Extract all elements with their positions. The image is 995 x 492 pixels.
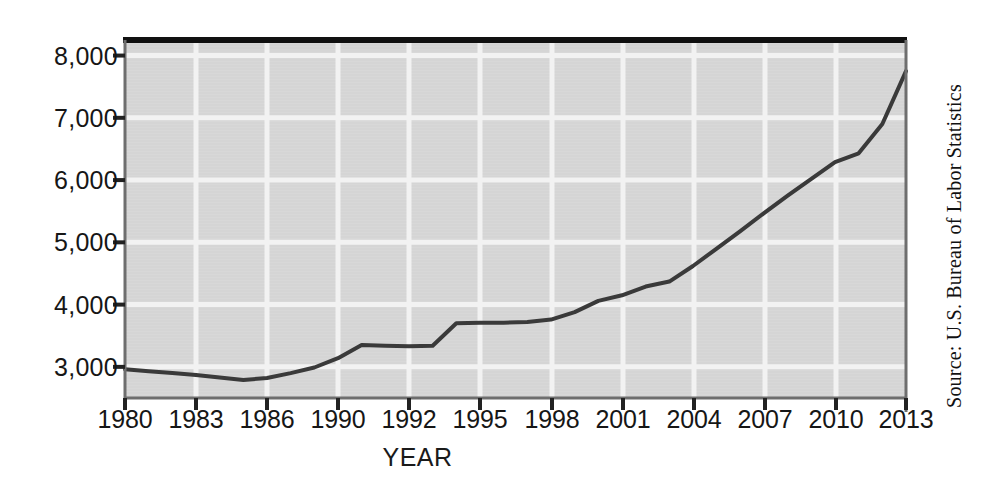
x-axis-tick-label: 2004 bbox=[667, 405, 722, 434]
x-axis-tick-label: 2013 bbox=[879, 405, 934, 434]
x-axis-tick-label: 2010 bbox=[809, 405, 864, 434]
y-axis-tick-label: 4,000 bbox=[18, 290, 118, 319]
x-axis-tick-label: 1990 bbox=[311, 405, 366, 434]
y-axis-tick-label: 8,000 bbox=[18, 41, 118, 70]
x-axis-title: YEAR bbox=[0, 443, 995, 472]
chart-figure: 3,0004,0005,0006,0007,0008,000 198019831… bbox=[0, 0, 995, 492]
source-note-text: Source: U.S. Bureau of Labor Statistics bbox=[943, 84, 966, 408]
x-axis-tick-label: 1998 bbox=[525, 405, 580, 434]
x-axis-tick-label: 2007 bbox=[738, 405, 793, 434]
y-axis-tick-label: 6,000 bbox=[18, 166, 118, 195]
x-axis-tick-label: 1992 bbox=[382, 405, 437, 434]
x-axis-title-text: YEAR bbox=[382, 443, 452, 471]
y-axis-tick-label: 5,000 bbox=[18, 228, 118, 257]
y-axis-tick-label: 7,000 bbox=[18, 103, 118, 132]
x-axis-tick-label: 2001 bbox=[596, 405, 651, 434]
x-axis-tick-label: 1983 bbox=[169, 405, 224, 434]
source-note: Source: U.S. Bureau of Labor Statistics bbox=[930, 0, 978, 492]
x-axis-tick-label: 1995 bbox=[453, 405, 508, 434]
x-axis-tick-label: 1980 bbox=[98, 405, 153, 434]
x-axis-tick-label: 1986 bbox=[240, 405, 295, 434]
y-axis-tick-label: 3,000 bbox=[18, 352, 118, 381]
